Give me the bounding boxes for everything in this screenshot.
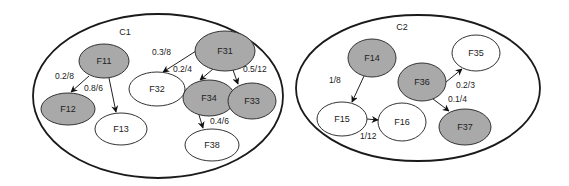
edge-label: 0.4/6 [210,116,229,126]
node-f38: F38 [185,129,239,161]
nodes-layer: F11F12F13F32F31F34F33F38F14F15F16F36F35F… [41,31,500,161]
cluster-label: C1 [119,27,131,37]
node-f12: F12 [41,93,95,125]
node-f16: F16 [378,103,426,141]
node-label: F31 [217,46,233,56]
edge-label: 0.1/4 [448,94,467,104]
edge-label: 0.3/8 [152,47,171,57]
node-f34: F34 [183,80,235,116]
edge-label: 0.2/3 [456,80,475,90]
node-label: F14 [364,53,380,63]
node-label: F12 [60,104,76,114]
node-label: F16 [394,117,410,127]
edge-f36-f35: 0.2/3 [446,69,475,90]
edge-label: 0.2/4 [173,64,192,74]
arrow-icon [352,76,364,102]
node-label: F34 [201,93,217,103]
node-label: F36 [414,77,430,87]
edge-f14-f15: 1/8 [329,75,364,102]
node-f32: F32 [129,72,185,106]
cluster-label: C2 [396,22,408,32]
arrow-icon [367,119,378,120]
arrow-icon [233,70,238,84]
node-f13: F13 [95,113,147,145]
arrow-icon [109,78,116,112]
node-label: F13 [113,124,129,134]
node-f14: F14 [348,39,396,77]
edge-label: 0.5/12 [243,64,267,74]
node-label: F37 [457,122,473,132]
node-label: F32 [149,84,165,94]
node-f15: F15 [317,102,367,136]
cluster-diagram: C1C2 0.2/80.8/60.3/80.2/40.5/120.4/61/81… [0,0,569,186]
node-f33: F33 [228,83,276,119]
arrow-icon [199,115,203,128]
edge-f34-f38: 0.4/6 [199,115,229,128]
node-label: F11 [97,56,112,66]
arrow-icon [433,99,449,111]
arrow-icon [200,69,213,80]
node-label: F35 [468,48,484,58]
edge-label: 1/12 [360,131,377,141]
node-label: F33 [244,96,260,106]
node-f11: F11 [79,44,129,78]
node-label: F15 [334,114,350,124]
node-f35: F35 [452,35,500,71]
edge-label: 0.2/8 [55,71,74,81]
node-f37: F37 [439,109,491,145]
edge-label: 1/8 [329,75,341,85]
node-f31: F31 [195,31,255,71]
node-label: F38 [204,140,220,150]
edge-label: 0.8/6 [84,83,103,93]
node-f36: F36 [398,63,446,101]
